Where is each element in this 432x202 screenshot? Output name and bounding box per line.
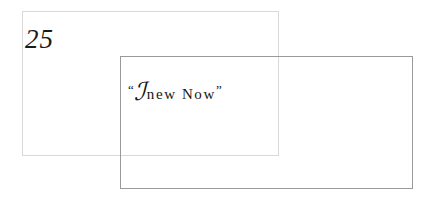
slide-canvas: 25 “ℐnew Now” (0, 0, 432, 202)
quote-text-block: “ℐnew Now” (128, 78, 222, 103)
swash-capital-a: ℐ (134, 79, 146, 104)
close-quote-mark: ” (216, 83, 222, 96)
slide-number-label: 25 (25, 26, 54, 53)
quote-words: new Now (147, 87, 216, 102)
front-frame-rectangle (120, 56, 413, 189)
